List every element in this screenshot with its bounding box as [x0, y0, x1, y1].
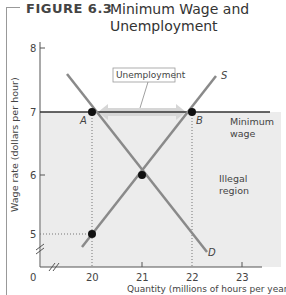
y-tick-8: 8 — [30, 43, 36, 54]
label-b: B — [196, 115, 203, 126]
label-demand: D — [208, 247, 216, 258]
y-tick-5: 5 — [30, 229, 36, 240]
minimum-wage-label-2: wage — [230, 128, 256, 139]
illegal-region-label-2: region — [219, 185, 249, 196]
x-axis-title: Quantity (millions of hours per year) — [127, 284, 286, 294]
illegal-region-label-1: Illegal — [219, 173, 247, 184]
label-supply: S — [221, 70, 228, 81]
x-tick-22: 22 — [186, 272, 199, 283]
y-tick-6: 6 — [30, 170, 36, 181]
y-tick-7: 7 — [30, 107, 36, 118]
point-supply-20 — [88, 230, 96, 238]
x-tick-0: 0 — [30, 272, 36, 283]
unemployment-leader — [140, 82, 148, 108]
x-tick-21: 21 — [136, 272, 149, 283]
label-a: A — [79, 115, 87, 126]
unemployment-label: Unemployment — [116, 70, 186, 80]
chart: 8 7 6 5 0 20 21 22 23 Wage rate (dollars… — [0, 0, 286, 295]
point-a — [88, 108, 96, 116]
x-tick-23: 23 — [236, 272, 249, 283]
x-tick-20: 20 — [86, 272, 99, 283]
equilibrium-point — [138, 171, 146, 179]
y-axis-title: Wage rate (dollars per hour) — [9, 77, 20, 212]
minimum-wage-label-1: Minimum — [230, 116, 274, 127]
point-b — [188, 108, 196, 116]
